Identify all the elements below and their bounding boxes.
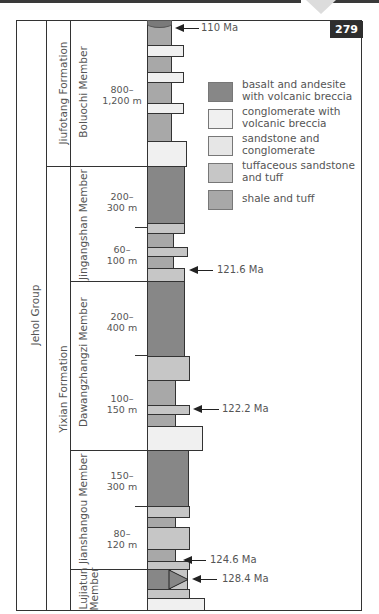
legend-label: conglomerate with volcanic breccia (242, 106, 360, 129)
legend-swatch (208, 163, 233, 183)
bed-shale (147, 56, 172, 73)
bed-shale (147, 113, 172, 142)
sub-boundary-tick (135, 227, 147, 228)
sub-boundary-tick (135, 355, 147, 356)
page-tab-notch (306, 0, 336, 14)
bed-basalt (147, 450, 189, 507)
legend-swatch (208, 190, 233, 210)
age-label-121-6: 121.6 Ma (217, 264, 264, 275)
sub-boundary-tick (135, 506, 147, 507)
thickness-line: 400 m (97, 322, 147, 333)
thickness-dawangzhangzi-upper: 200–400 m (97, 311, 147, 333)
formation-divider (70, 20, 71, 611)
thickness-line: 800– (97, 84, 147, 95)
age-label-110: 110 Ma (201, 22, 238, 33)
lujiatun-line1: Lujiatun (77, 568, 89, 610)
member-boundary-1 (70, 281, 147, 282)
volcanic-cone-icon (168, 569, 190, 590)
formation-boundary (46, 166, 147, 167)
legend-label: sandstone and conglomerate (242, 133, 360, 156)
bed-basalt (147, 281, 185, 357)
header-bar-right (332, 0, 379, 3)
group-divider (46, 20, 47, 611)
thickness-jingangshan-lower: 60–100 m (97, 244, 147, 266)
header-bar (0, 0, 301, 3)
thickness-line: 1,200 m (97, 95, 147, 106)
age-label-122-2: 122.2 Ma (222, 403, 269, 414)
arrow-line (200, 579, 217, 580)
bed-tuff (147, 268, 185, 282)
bed-cap-lens (147, 20, 172, 28)
bed-conglomerate (147, 141, 187, 167)
legend-swatch (208, 136, 233, 156)
lujiatun-line2: Member (88, 567, 100, 610)
member-label-boluochi: Boluochi Member (77, 42, 89, 142)
bed-shale (147, 380, 176, 406)
bed-basalt (147, 166, 185, 224)
formation-label-jiufotang: Jiufotang Formation (57, 38, 69, 148)
arrow-line (183, 28, 199, 29)
legend-swatch (208, 109, 233, 129)
age-label-124-6: 124.6 Ma (210, 554, 257, 565)
age-label-128-4: 128.4 Ma (222, 573, 269, 584)
arrow-line (191, 560, 206, 561)
thickness-line: 80– (97, 528, 147, 539)
thickness-jingangshan-upper: 200–300 m (97, 191, 147, 213)
thickness-line: 300 m (97, 481, 147, 492)
thickness-line: 60– (97, 244, 147, 255)
legend-label: shale and tuff (242, 193, 360, 205)
thickness-jianshangou-upper: 150–300 m (97, 470, 147, 492)
member-label-lujiatun: Lujiatun (78, 564, 89, 614)
thickness-boluochi: 800–1,200 m (97, 84, 147, 106)
thickness-dawangzhangzi-lower: 100–150 m (97, 393, 147, 415)
thickness-line: 300 m (97, 202, 147, 213)
member-label-jingangshan: Jingangshan Member (77, 170, 89, 280)
member-label-lujiatun-2: Member (88, 564, 100, 614)
bed-shale (147, 233, 174, 248)
legend-label: basalt and andesite with volcanic brecci… (242, 79, 360, 102)
member-label-jianshangou: Jianshangou Member (77, 454, 89, 564)
page-number: 279 (330, 21, 363, 38)
member-boundary-2 (70, 450, 147, 451)
thickness-line: 200– (97, 191, 147, 202)
thickness-line: 150– (97, 470, 147, 481)
thickness-line: 100 m (97, 255, 147, 266)
thickness-line: 100– (97, 393, 147, 404)
bed-tuff (147, 356, 190, 381)
bed-tuff (147, 527, 190, 550)
bed-conglomerate (147, 598, 205, 611)
thickness-jianshangou-lower: 80–120 m (97, 528, 147, 550)
thickness-line: 200– (97, 311, 147, 322)
bed-conglomerate (147, 426, 203, 451)
formation-label-yixian: Yixian Formation (57, 339, 69, 439)
group-label: Jehol Group (29, 275, 41, 355)
member-label-dawangzhangzi: Dawangzhangzi Member (77, 307, 89, 427)
legend-label: tuffaceous sandstone and tuff (242, 160, 360, 183)
arrow-line (197, 270, 213, 271)
thickness-line: 120 m (97, 539, 147, 550)
bed-shale (147, 82, 172, 104)
thickness-line: 150 m (97, 404, 147, 415)
legend-swatch (208, 82, 233, 102)
arrow-line (201, 409, 219, 410)
